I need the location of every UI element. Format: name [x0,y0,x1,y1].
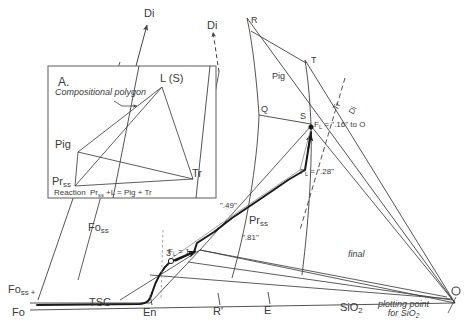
label-di-solid: Di [144,8,154,19]
plotting-point-caption: plotting point for SiO2 [378,300,429,319]
inset-vertex-prss-text: Pr [52,175,63,187]
tick-rprime [218,293,220,305]
fl-28-text: = ".28" [310,167,334,176]
label-di-dashed: Di [207,20,217,31]
plotting-point-line2: for SiO [388,308,416,318]
label-point-t: T [311,56,317,65]
field-label-prss: Prss [249,215,268,228]
field-label-prss-text: Pr [249,214,260,226]
inset-compositional-polygon-label: Compositional polygon [55,88,146,97]
curve-q-down [232,115,259,278]
right-long-edge [247,18,455,303]
line-r-t [251,31,306,63]
label-point-r: R [251,16,258,25]
reaction-phase-sub: ss [98,192,104,198]
axis-label-e: E [264,305,271,316]
label-point-s: S [300,112,306,121]
tick-e [268,292,270,304]
inset-panel-a [48,66,216,198]
plotting-point-sio2-marker [452,287,460,295]
field-label-foss-left-sub: ss [21,288,29,297]
reaction-rest: +L = Pig + Tr [106,188,152,197]
field-label-foss-upper: Foss [88,222,109,235]
point-s-marker [309,125,313,129]
inset-reaction-text: Reaction Prss +L = Pig + Tr [54,189,152,198]
axis-label-sio2-text: SiO [340,301,358,313]
field-label-foss-left-plus: + [31,288,36,297]
annotation-value-49: ".49" [220,202,237,210]
fl-16-symbol-sub: L [319,124,322,130]
curve-s-down [302,124,311,275]
phase-diagram-figure: Di Di A. Compositional polygon L (S) Pig… [0,0,472,332]
diagram-canvas [0,0,472,332]
inset-vertex-ls: L (S) [160,73,183,84]
point-3-marker [168,258,173,263]
field-label-foss-upper-sub: ss [101,226,109,235]
axis-label-sio2-sub: 2 [358,306,362,315]
axis-label-r-prime: R' [213,306,223,317]
annotation-fl-28: FL = ".28" [300,168,334,177]
line-s-to-sio2 [311,126,455,303]
fl-1-symbol-sub: L [173,251,176,257]
annotation-fl-16: FL = ".16" to O [314,121,365,130]
baseline-ticks [150,292,270,305]
field-label-foss-upper-text: Fo [88,221,101,233]
reaction-prefix: Reaction [54,188,86,197]
annotation-final: final [348,250,365,259]
field-label-tsc: TSC [89,297,111,308]
field-label-foss-left-text: Fo [8,283,21,295]
plotting-point-sub: 2 [416,312,420,319]
fl-16-text: = ".16" to O [324,120,365,129]
annotation-fl-1: FL = 1 [168,248,190,257]
field-label-foss-left: Foss+ [8,284,35,297]
line-s-to-3 [200,126,311,250]
fan-3-to-right [200,250,447,297]
inset-vertex-tr: Tr [192,168,202,179]
axis-label-sio2: SiO2 [340,302,363,315]
bold-path-up-to-3 [152,262,170,293]
axis-label-fo: Fo [12,307,25,318]
fl-1-text: = 1 [178,247,189,256]
field-label-prss-sub: ss [260,219,268,228]
reaction-phase: Pr [90,188,98,197]
field-label-pig: Pig [272,72,285,81]
inset-vertex-pig: Pig [55,139,71,150]
axis-label-en: En [143,307,156,318]
label-point-q: Q [261,105,268,114]
fl-28-symbol-sub: L [305,171,308,177]
annotation-value-81: ".81" [242,234,259,242]
right-outer-edge [305,60,455,303]
